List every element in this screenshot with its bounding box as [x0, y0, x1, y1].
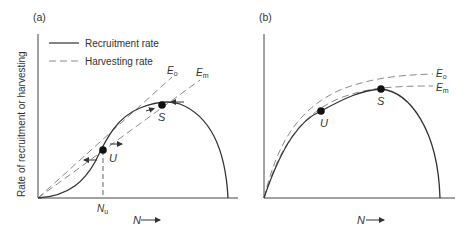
point-s-a	[158, 101, 166, 109]
point-u-a-label: U	[109, 152, 117, 164]
panel-b-label: (b)	[259, 11, 272, 23]
legend-harvesting-label: Harvesting rate	[85, 56, 153, 67]
recruitment-curve-b	[264, 89, 440, 198]
point-u-b-label: U	[320, 117, 328, 129]
figure: (a) Rate of recruitment or harvesting Re…	[0, 0, 468, 234]
eo-curve	[264, 74, 433, 198]
point-s-b-label: S	[377, 95, 385, 107]
eo-label-b: Eo	[436, 68, 447, 80]
recruitment-curve-a	[38, 102, 228, 198]
point-s-b	[377, 85, 385, 93]
arrow-right-s	[146, 109, 154, 112]
panel-b: (b) Eo Em U S N	[259, 11, 455, 226]
panel-a-label: (a)	[33, 11, 46, 23]
em-line	[38, 80, 200, 198]
panel-a: (a) Rate of recruitment or harvesting Re…	[16, 11, 238, 226]
nu-label: Nu	[97, 203, 108, 215]
legend-recruitment-label: Recruitment rate	[85, 38, 159, 49]
point-s-a-label: S	[158, 111, 166, 123]
eo-line	[38, 77, 172, 198]
em-label: Em	[196, 67, 209, 79]
x-axis-label-a: N	[133, 214, 141, 226]
point-u-b	[317, 107, 325, 115]
x-axis-label-b: N	[357, 214, 365, 226]
y-axis-label: Rate of recruitment or harvesting	[16, 51, 27, 197]
eo-label: Eo	[167, 65, 178, 77]
legend: Recruitment rate Harvesting rate	[49, 38, 159, 67]
em-label-b: Em	[436, 82, 449, 94]
point-u-a	[99, 146, 107, 154]
